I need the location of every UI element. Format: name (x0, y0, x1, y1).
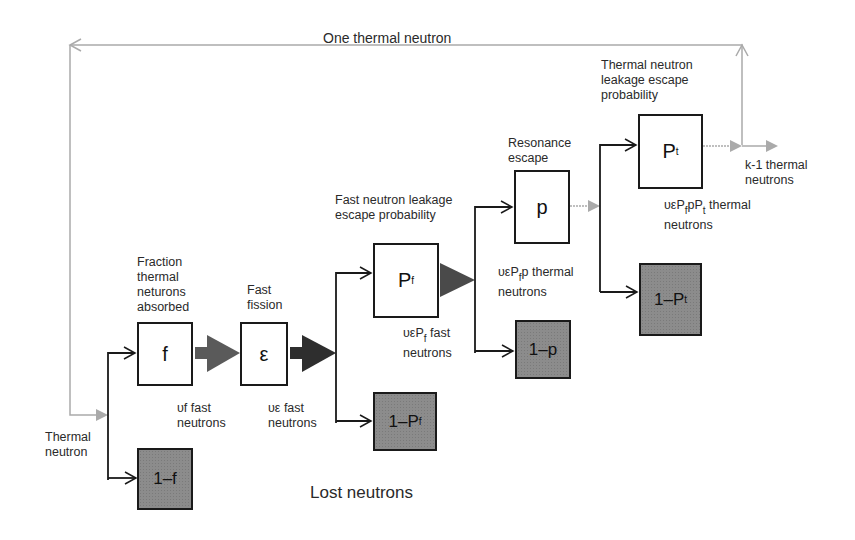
input-split (108, 353, 136, 480)
input-label: Thermalneutron (45, 430, 91, 460)
output-arrowhead-icon (766, 140, 778, 152)
stage-pt-output: υεPfpPt thermal neutrons (664, 198, 751, 233)
lost-box-1-f: 1–f (137, 448, 193, 510)
thermal-arrowhead-icon (96, 409, 108, 421)
stage-pf-output: υεPf fast neutrons (403, 326, 452, 361)
lost-box-1-pf: 1–Pf (373, 392, 437, 451)
stage-pt-box: Pt (638, 114, 703, 189)
stage-epsilon-description: Fastfission (247, 283, 282, 313)
fast-arrow-epsilon-split (290, 335, 336, 372)
stage-pt-description: Thermal neutronleakage escapeprobability (601, 58, 693, 103)
stage-f-description: Fractionthermal neturonsabsorbed (137, 255, 189, 315)
lost-box-1-pt: 1–Pt (639, 263, 702, 336)
stage-f-box: f (137, 322, 193, 386)
stage-p-output: υεPfp thermal neutrons (498, 265, 574, 300)
lost-box-1-p: 1–p (515, 320, 571, 379)
lost-neutrons-label: Lost neutrons (310, 483, 413, 503)
stage-pf-box: Pf (373, 243, 439, 318)
stage-p-box: p (514, 170, 570, 244)
stage-epsilon-output: υε fastneutrons (268, 401, 317, 431)
result-label: k-1 thermalneutrons (745, 158, 808, 188)
stage-epsilon-box: ε (240, 322, 288, 386)
stage-f-output: υf fastneutrons (177, 401, 226, 431)
fast-arrow-pf-split (440, 263, 475, 297)
loop-label: One thermal neutron (323, 31, 451, 46)
stage-pf-description: Fast neutron leakageescape probability (335, 193, 452, 223)
fast-arrow-f-epsilon (195, 335, 240, 372)
stage-p-description: Resonanceescape (508, 136, 571, 166)
